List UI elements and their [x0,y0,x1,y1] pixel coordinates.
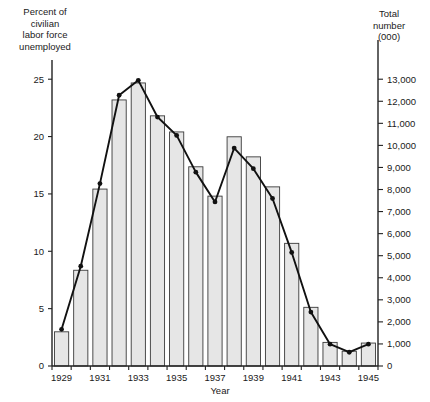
data-point-1942 [308,310,313,315]
bar-1937 [208,196,222,366]
left-tick-label-20: 20 [33,131,44,142]
bar-1932 [112,100,126,366]
bar-1935 [170,132,184,366]
data-point-1939 [251,166,256,171]
right-tick-label-12000: 12,000 [387,96,416,107]
data-point-1944 [347,350,352,355]
bar-1941 [285,243,299,366]
bar-series-group [54,83,375,366]
data-point-1943 [328,342,333,347]
left-tick-label-0: 0 [39,360,44,371]
right-tick-label-7000: 7,000 [387,206,411,217]
chart-container: Percent of civilian labor force unemploy… [0,0,430,402]
bar-1929 [54,332,68,366]
right-tick-label-11000: 11,000 [387,118,415,129]
left-tick-label-25: 25 [33,74,44,85]
plot-area: 051015202501,0002,0003,0004,0005,0006,00… [0,0,430,402]
right-tick-label-4000: 4,000 [387,272,411,283]
right-tick-label-1000: 1,000 [387,338,411,349]
bar-1934 [150,116,164,366]
x-tick-label-1933: 1933 [128,372,149,383]
x-tick-label-1945: 1945 [358,372,379,383]
data-point-1934 [155,115,160,120]
tick-labels-group: 051015202501,0002,0003,0004,0005,0006,00… [33,74,416,383]
data-point-1935 [174,133,179,138]
x-tick-label-1943: 1943 [319,372,340,383]
data-point-1932 [117,93,122,98]
x-tick-label-1929: 1929 [51,372,72,383]
right-tick-label-2000: 2,000 [387,316,411,327]
left-tick-label-5: 5 [39,303,44,314]
data-point-1940 [270,196,275,201]
data-point-1930 [78,264,83,269]
right-tick-label-10000: 10,000 [387,140,416,151]
right-tick-label-6000: 6,000 [387,228,411,239]
right-tick-label-5000: 5,000 [387,250,411,261]
x-tick-label-1937: 1937 [204,372,225,383]
data-point-1929 [59,327,64,332]
right-tick-label-8000: 8,000 [387,184,411,195]
x-tick-label-1931: 1931 [89,372,110,383]
bar-1933 [131,83,145,366]
left-tick-label-10: 10 [33,246,44,257]
left-tick-label-15: 15 [33,188,44,199]
data-point-1931 [98,181,103,186]
bar-1942 [304,307,318,366]
x-tick-label-1935: 1935 [166,372,187,383]
data-point-1933 [136,78,141,83]
data-point-1945 [366,342,371,347]
right-tick-label-13000: 13,000 [387,74,416,85]
right-tick-label-3000: 3,000 [387,294,411,305]
data-point-1938 [232,146,237,151]
right-tick-label-0: 0 [387,360,392,371]
data-point-1937 [213,200,218,205]
bar-1931 [93,189,107,366]
bar-1938 [227,137,241,366]
bar-1939 [246,157,260,366]
x-tick-label-1939: 1939 [243,372,264,383]
x-tick-label-1941: 1941 [281,372,302,383]
data-point-1941 [289,250,294,255]
data-point-1936 [193,170,198,175]
bar-1936 [189,167,203,366]
right-tick-label-9000: 9,000 [387,162,411,173]
